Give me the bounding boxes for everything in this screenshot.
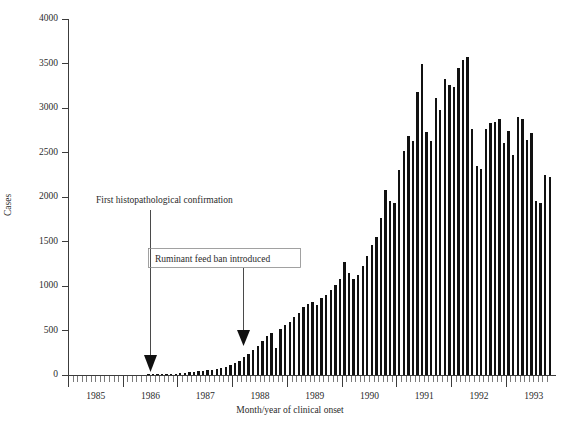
x-tick-label: 1988 bbox=[251, 391, 270, 401]
bar bbox=[507, 131, 509, 375]
bar bbox=[430, 141, 432, 375]
bar bbox=[362, 266, 364, 375]
bar bbox=[311, 302, 313, 375]
bar bbox=[257, 346, 259, 375]
x-tick-label: 1992 bbox=[470, 391, 489, 401]
x-tick-label: 1991 bbox=[415, 391, 434, 401]
bar bbox=[348, 273, 350, 375]
bar bbox=[202, 371, 204, 375]
bar bbox=[152, 374, 154, 375]
bar bbox=[243, 357, 245, 375]
bar bbox=[188, 372, 190, 375]
y-tick-label: 0 bbox=[53, 369, 58, 379]
bar bbox=[421, 64, 423, 375]
figure-bse-cases-chart: 05001000150020002500300035004000 1985198… bbox=[0, 0, 564, 423]
bar bbox=[498, 119, 500, 375]
bar bbox=[517, 117, 519, 375]
y-tick-label: 4000 bbox=[39, 13, 58, 23]
bar bbox=[539, 203, 541, 375]
bar bbox=[247, 354, 249, 375]
bar bbox=[352, 279, 354, 375]
bar bbox=[380, 218, 382, 375]
bar bbox=[343, 262, 345, 375]
x-tick-label: 1986 bbox=[141, 391, 160, 401]
bar bbox=[206, 370, 208, 375]
bar bbox=[471, 129, 473, 375]
bar bbox=[503, 143, 505, 375]
chart-canvas: 05001000150020002500300035004000 1985198… bbox=[0, 0, 564, 423]
bar bbox=[521, 119, 523, 375]
bar bbox=[266, 336, 268, 375]
bar bbox=[339, 279, 341, 375]
bar bbox=[216, 369, 218, 375]
bar bbox=[371, 245, 373, 375]
bar bbox=[494, 122, 496, 375]
x-tick-label-group: 198519861987198819891990199119921993 bbox=[86, 391, 543, 401]
bar bbox=[393, 203, 395, 375]
bar bbox=[416, 92, 418, 375]
y-tick-label: 3000 bbox=[39, 102, 58, 112]
bar bbox=[549, 177, 551, 375]
y-tick-label: 1500 bbox=[39, 236, 58, 246]
bar bbox=[544, 175, 546, 375]
y-tick-label: 2500 bbox=[39, 147, 58, 157]
bar bbox=[453, 87, 455, 375]
annotation-feed-ban: Ruminant feed ban introduced bbox=[149, 249, 301, 347]
x-tick-label: 1990 bbox=[360, 391, 379, 401]
bar bbox=[302, 307, 304, 375]
bar bbox=[147, 374, 149, 375]
bar bbox=[193, 372, 195, 375]
bar bbox=[298, 313, 300, 375]
bar bbox=[425, 132, 427, 375]
x-tick-label: 1985 bbox=[86, 391, 105, 401]
bar bbox=[457, 68, 459, 375]
bar bbox=[320, 298, 322, 375]
y-axis-title: Cases bbox=[3, 194, 13, 216]
x-tick-label: 1993 bbox=[524, 391, 543, 401]
bar bbox=[530, 133, 532, 375]
bar bbox=[462, 60, 464, 375]
bar bbox=[252, 350, 254, 375]
bar bbox=[229, 365, 231, 375]
bar bbox=[279, 329, 281, 375]
annotation-feed-ban-label: Ruminant feed ban introduced bbox=[155, 254, 271, 264]
bar bbox=[165, 374, 167, 375]
annotation-feed-ban-arrow-head bbox=[237, 330, 250, 346]
annotation-first-confirmation: First histopathological confirmation bbox=[96, 195, 233, 372]
bar bbox=[526, 140, 528, 375]
bar bbox=[366, 256, 368, 375]
bar bbox=[407, 136, 409, 375]
bar bbox=[448, 85, 450, 375]
x-axis-title: Month/year of clinical onset bbox=[236, 405, 344, 415]
bar bbox=[284, 325, 286, 375]
bar bbox=[389, 201, 391, 375]
bar bbox=[489, 123, 491, 375]
y-tick-label: 500 bbox=[44, 325, 59, 335]
bar-series-group bbox=[147, 57, 551, 375]
bar bbox=[435, 98, 437, 375]
bar bbox=[156, 374, 158, 375]
bar bbox=[398, 170, 400, 375]
x-tick-group bbox=[69, 376, 548, 387]
bar bbox=[184, 373, 186, 375]
annotation-first-confirmation-label: First histopathological confirmation bbox=[96, 195, 233, 205]
bar bbox=[261, 341, 263, 375]
bar bbox=[412, 141, 414, 375]
bar bbox=[307, 304, 309, 375]
bar bbox=[175, 374, 177, 375]
y-tick-label: 3500 bbox=[39, 58, 58, 68]
y-tick-label: 1000 bbox=[39, 280, 58, 290]
annotation-first-confirmation-arrow-head bbox=[144, 355, 157, 372]
bar bbox=[476, 166, 478, 375]
bar bbox=[293, 317, 295, 375]
bar bbox=[403, 151, 405, 375]
y-tick-group bbox=[62, 19, 69, 375]
bar bbox=[197, 371, 199, 375]
bar bbox=[179, 373, 181, 375]
bar bbox=[225, 367, 227, 375]
bar bbox=[512, 155, 514, 375]
bar bbox=[535, 201, 537, 375]
bar bbox=[275, 348, 277, 375]
bar bbox=[384, 190, 386, 375]
bar bbox=[334, 285, 336, 375]
